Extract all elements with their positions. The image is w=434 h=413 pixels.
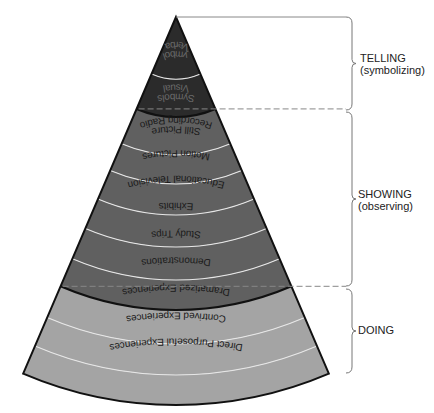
bracket-telling [346,17,356,110]
group-label-telling: TELLING (symbolizing) [360,52,425,76]
cone-band-label: Exhibits [158,201,193,213]
showing-title: SHOWING [358,188,413,200]
showing-subtitle: (observing) [358,200,413,212]
telling-subtitle: (symbolizing) [360,64,425,76]
group-label-doing: DOING [358,324,394,336]
group-label-showing: SHOWING (observing) [358,188,413,212]
doing-title: DOING [358,324,394,336]
bracket-showing [346,112,356,286]
cone-band-label: Symbols [157,92,196,105]
bracket-doing [346,289,356,373]
cone-band-label: Verbal [0,0,190,53]
cone-band-label: Study Trips [151,228,201,240]
telling-title: TELLING [360,52,425,64]
